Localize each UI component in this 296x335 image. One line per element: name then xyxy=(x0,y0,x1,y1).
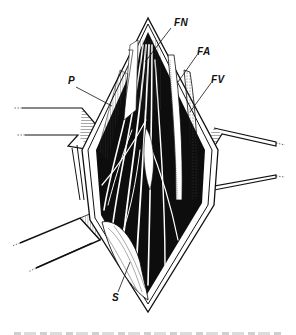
retractor-lower-left xyxy=(12,213,104,272)
label-fa: FA xyxy=(197,46,211,57)
anatomical-illustration xyxy=(0,0,296,335)
label-fv: FV xyxy=(211,74,225,85)
label-fn: FN xyxy=(174,17,188,28)
figure-caption-cropped xyxy=(14,329,284,335)
label-p: P xyxy=(68,75,75,86)
label-s: S xyxy=(112,292,119,303)
femoral-nerve-bundle xyxy=(123,40,162,120)
